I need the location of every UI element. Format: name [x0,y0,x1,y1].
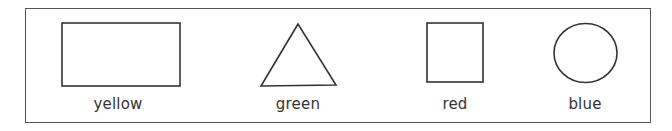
shape-label-green: green [238,95,358,113]
shape-label-blue: blue [525,95,645,113]
square-shape [427,23,483,82]
shape-label-red: red [395,95,515,113]
triangle-shape [261,24,336,86]
shape-label-yellow: yellow [58,95,178,113]
rectangle-shape [62,23,180,86]
circle-shape [554,24,617,83]
